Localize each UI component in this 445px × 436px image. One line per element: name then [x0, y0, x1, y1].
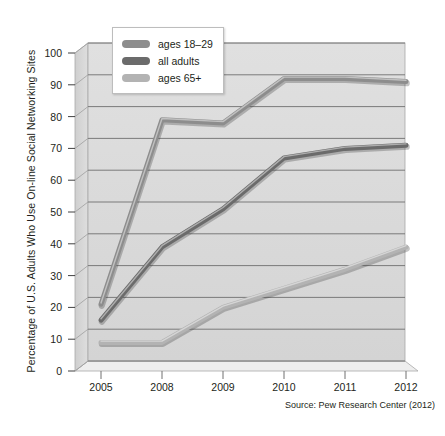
x-tick-label: 2008	[137, 381, 187, 393]
x-tick-label: 2012	[381, 381, 431, 393]
y-tick-label: 0	[28, 365, 62, 377]
legend-item-ages-18-29: ages 18–29	[122, 35, 215, 52]
y-tick-label: 60	[28, 174, 62, 186]
legend-item-all-adults: all adults	[122, 52, 215, 69]
legend-label-ages-18-29: ages 18–29	[158, 38, 213, 50]
x-tick-label: 2005	[76, 381, 126, 393]
plot-floor	[75, 361, 418, 371]
chart-legend: ages 18–29 all adults ages 65+	[112, 27, 224, 94]
x-tick-label: 2011	[320, 381, 370, 393]
legend-label-all-adults: all adults	[158, 55, 199, 67]
x-tick-marks	[101, 371, 406, 379]
chart-root: Percentage of U.S. Adults Who Use On-lin…	[0, 0, 445, 436]
y-tick-label: 70	[28, 142, 62, 154]
x-tick-label: 2009	[198, 381, 248, 393]
y-tick-label: 100	[28, 47, 62, 59]
legend-swatch-all-adults	[122, 57, 150, 65]
y-tick-label: 40	[28, 238, 62, 250]
y-tick-label: 20	[28, 301, 62, 313]
legend-swatch-ages-65-plus	[122, 74, 150, 82]
y-tick-label: 30	[28, 270, 62, 282]
y-tick-label: 90	[28, 79, 62, 91]
legend-swatch-ages-18-29	[122, 40, 150, 48]
source-note: Source: Pew Research Center (2012)	[285, 400, 435, 410]
y-tick-marks	[68, 53, 75, 371]
y-tick-label: 10	[28, 333, 62, 345]
y-tick-label: 80	[28, 111, 62, 123]
x-tick-label: 2010	[259, 381, 309, 393]
legend-item-ages-65-plus: ages 65+	[122, 69, 215, 86]
y-tick-label: 50	[28, 206, 62, 218]
legend-label-ages-65-plus: ages 65+	[158, 72, 202, 84]
